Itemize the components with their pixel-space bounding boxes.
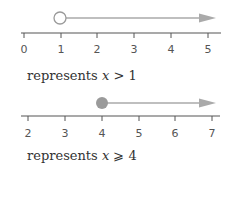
- caption-value: 1: [128, 68, 136, 83]
- tick-label: 2: [94, 43, 101, 56]
- closed-point: [96, 97, 108, 109]
- tick-label: 1: [58, 43, 65, 56]
- tick-label: 6: [172, 127, 179, 140]
- caption-2: represents x ⩾ 4: [27, 148, 137, 163]
- open-point: [54, 12, 66, 24]
- tick-labels: 0 1 2 3 4 5: [21, 43, 212, 56]
- tick-labels: 2 3 4 5 6 7: [25, 127, 216, 140]
- axis-ticks: [28, 116, 212, 121]
- caption-variable: x: [102, 148, 110, 163]
- caption-1: represents x > 1: [27, 68, 137, 83]
- number-line-figure: 0 1 2 3 4 5 represents x > 1 2: [0, 0, 232, 220]
- tick-label: 3: [62, 127, 69, 140]
- tick-label: 0: [21, 43, 28, 56]
- tick-label: 7: [209, 127, 216, 140]
- number-line-1: 0 1 2 3 4 5 represents x > 1: [21, 12, 222, 83]
- caption-prefix: represents: [27, 148, 98, 163]
- caption-prefix: represents: [27, 68, 98, 83]
- tick-label: 5: [136, 127, 143, 140]
- number-line-2: 2 3 4 5 6 7 represents x ⩾ 4: [21, 97, 220, 163]
- tick-label: 4: [168, 43, 175, 56]
- caption-value: 4: [129, 148, 137, 163]
- arrowhead-icon: [199, 99, 216, 108]
- tick-label: 3: [131, 43, 138, 56]
- caption-operator: >: [113, 68, 124, 83]
- axis-ticks: [24, 33, 208, 38]
- arrowhead-icon: [199, 14, 216, 23]
- caption-operator: ⩾: [113, 148, 124, 163]
- tick-label: 2: [25, 127, 32, 140]
- caption-variable: x: [102, 68, 110, 83]
- tick-label: 4: [99, 127, 106, 140]
- tick-label: 5: [205, 43, 212, 56]
